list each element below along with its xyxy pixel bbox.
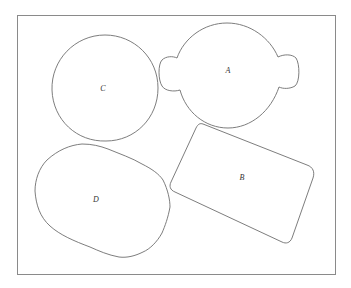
- shape-a-outline: [159, 23, 299, 128]
- shape-c: C: [52, 35, 158, 141]
- shape-a: A: [159, 23, 299, 128]
- shapes-diagram: C A D B: [0, 0, 351, 288]
- shape-b-label: B: [240, 173, 245, 182]
- shape-c-label: C: [100, 84, 106, 93]
- shape-b: B: [170, 124, 314, 243]
- shape-d-label: D: [92, 195, 99, 204]
- shape-a-label: A: [225, 66, 231, 75]
- shape-d: D: [35, 144, 170, 257]
- shape-b-outline: [170, 124, 314, 243]
- shape-d-outline: [35, 144, 170, 257]
